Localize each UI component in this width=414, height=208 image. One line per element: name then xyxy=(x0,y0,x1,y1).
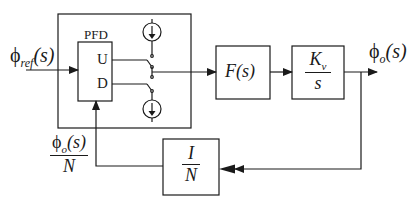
feedback-to-pfd-arrow xyxy=(96,101,163,166)
feedback-path xyxy=(235,72,361,169)
diagram-canvas xyxy=(0,0,414,208)
vco-transfer-function: Kv s xyxy=(305,49,331,94)
output-phase-label: ϕo(s) xyxy=(369,40,407,67)
top-source-arrowhead xyxy=(149,34,156,39)
filter-label: F(s) xyxy=(225,61,255,82)
pfd-down-label: D xyxy=(97,75,108,92)
pfd-up-label: U xyxy=(97,51,108,68)
divider-input-arrowhead xyxy=(219,165,235,174)
pfd-label: PFD xyxy=(84,27,108,43)
feedback-phase-label: ϕo(s) N xyxy=(50,132,88,177)
bottom-source-arrowhead xyxy=(149,111,156,116)
input-phase-label: ϕref(s) xyxy=(10,44,55,71)
divider-transfer-function: I N xyxy=(182,143,200,186)
